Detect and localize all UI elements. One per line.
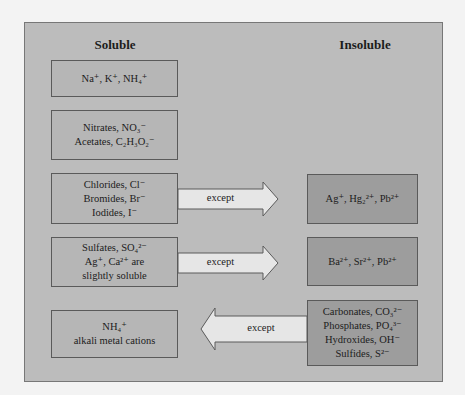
- left-arrow-icon: except: [200, 307, 307, 351]
- right-arrow-icon: except: [178, 245, 280, 281]
- arrow-label: except: [215, 322, 307, 333]
- soluble-box-sulfates: Sulfates, SO₄²⁻ Ag⁺, Ca²⁺ are slightly s…: [51, 237, 178, 287]
- box-text: Hydroxides, OH⁻: [325, 333, 400, 347]
- heading-insoluble: Insoluble: [310, 37, 420, 53]
- insoluble-box-sulfate-exceptions: Ba²⁺, Sr²⁺, Pb²⁺: [307, 237, 418, 286]
- box-text: Ba²⁺, Sr²⁺, Pb²⁺: [328, 255, 397, 269]
- insoluble-box-halide-exceptions: Ag⁺, Hg₂²⁺, Pb²⁺: [307, 174, 418, 224]
- soluble-box-alkali-ammonium: Na⁺, K⁺, NH₄⁺: [51, 60, 178, 97]
- box-text: Sulfates, SO₄²⁻: [82, 241, 147, 255]
- soluble-box-halides: Chlorides, Cl⁻ Bromides, Br⁻ Iodides, I⁻: [51, 173, 178, 224]
- box-text: Ag⁺, Hg₂²⁺, Pb²⁺: [326, 192, 400, 206]
- box-text: Acetates, C₂H₃O₂⁻: [74, 135, 154, 149]
- box-text: Bromides, Br⁻: [83, 192, 145, 206]
- box-text: alkali metal cations: [74, 334, 156, 348]
- soluble-box-exceptions: NH₄⁺ alkali metal cations: [51, 310, 178, 358]
- box-text: Na⁺, K⁺, NH₄⁺: [82, 72, 148, 86]
- arrow-label: except: [178, 192, 263, 203]
- box-text: slightly soluble: [82, 269, 146, 283]
- right-arrow-icon: except: [178, 181, 280, 217]
- heading-soluble: Soluble: [60, 37, 170, 53]
- box-text: Nitrates, NO₃⁻: [83, 121, 146, 135]
- box-text: Carbonates, CO₃²⁻: [323, 305, 402, 319]
- soluble-box-nitrates-acetates: Nitrates, NO₃⁻ Acetates, C₂H₃O₂⁻: [51, 110, 178, 160]
- insoluble-box-anions: Carbonates, CO₃²⁻ Phosphates, PO₄³⁻ Hydr…: [307, 300, 418, 366]
- box-text: NH₄⁺: [102, 320, 126, 334]
- box-text: Phosphates, PO₄³⁻: [323, 319, 401, 333]
- box-text: Ag⁺, Ca²⁺ are: [85, 255, 144, 269]
- box-text: Chlorides, Cl⁻: [84, 178, 146, 192]
- box-text: Iodides, I⁻: [92, 206, 137, 220]
- box-text: Sulfides, S²⁻: [335, 347, 389, 361]
- arrow-label: except: [178, 256, 263, 267]
